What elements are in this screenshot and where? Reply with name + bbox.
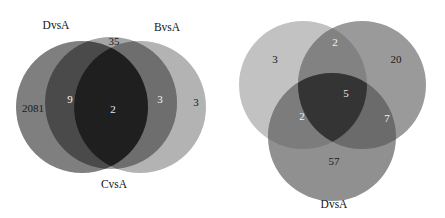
right-count-all: 5 <box>343 87 349 99</box>
right-count-a-c: 2 <box>299 110 305 122</box>
right-count-a-b: 2 <box>332 36 338 48</box>
right-count-b-c: 7 <box>384 112 390 124</box>
right-count-b-only: 20 <box>391 53 403 65</box>
left-venn-svg: DvsA BvsA CvsA 2081 35 3 9 3 2 <box>0 0 222 218</box>
right-label-dvsa: DvsA <box>321 198 349 210</box>
right-count-c-only: 57 <box>329 155 341 167</box>
left-count-bvsa-cvsa: 3 <box>157 93 163 105</box>
left-count-dvsa-only: 2081 <box>22 102 44 114</box>
left-label-bvsa: BvsA <box>154 21 181 33</box>
left-count-dvsa-bvsa: 35 <box>109 35 121 47</box>
left-label-dvsa: DvsA <box>43 19 71 31</box>
left-count-all: 2 <box>110 103 116 115</box>
right-count-a-only: 3 <box>272 53 278 65</box>
right-venn-svg: DvsA 3 20 57 2 2 7 5 <box>222 0 445 218</box>
left-venn-panel: DvsA BvsA CvsA 2081 35 3 9 3 2 <box>0 0 222 218</box>
left-label-cvsa: CvsA <box>101 178 128 190</box>
left-count-bvsa-only: 3 <box>193 96 199 108</box>
venn-diagram-figure: DvsA BvsA CvsA 2081 35 3 9 3 2 <box>0 0 445 218</box>
right-venn-panel: DvsA 3 20 57 2 2 7 5 <box>222 0 445 218</box>
left-count-dvsa-cvsa: 9 <box>67 93 73 105</box>
